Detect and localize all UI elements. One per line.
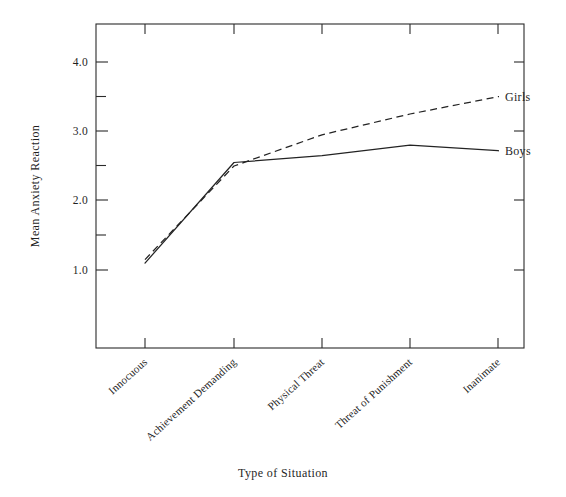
x-tick-label-innocuous: Innocuous: [106, 356, 149, 397]
series-line-boys: [145, 145, 498, 263]
top-axis-ticks: [145, 24, 498, 34]
x-axis-title: Type of Situation: [238, 466, 328, 480]
x-tick-label-achievement-demanding: Achievement Demanding: [143, 355, 238, 442]
x-tick-label-threat-of-punishment: Threat of Punishment: [332, 356, 414, 431]
y-tick-label-1: 1.0: [73, 264, 88, 276]
y-tick-label-4: 4.0: [73, 56, 88, 68]
series-label-boys: Boys: [505, 144, 531, 158]
y-axis-title: Mean Anxiety Reaction: [28, 125, 42, 247]
y-tick-label-2: 2.0: [73, 194, 88, 206]
y-tick-label-3: 3.0: [73, 125, 88, 137]
x-tick-label-physical-threat: Physical Threat: [265, 356, 326, 413]
y-axis-minor-ticks: [96, 97, 106, 236]
line-chart-figure: 4.0 3.0 2.0 1.0 Mean Anxiety Reaction In…: [0, 0, 566, 497]
series-label-girls: Girls: [505, 90, 531, 104]
plot-frame: [96, 24, 524, 348]
x-axis-ticks: [145, 338, 498, 348]
series-line-girls: [145, 97, 498, 260]
x-tick-label-inanimate: Inanimate: [460, 356, 502, 396]
chart-container: 4.0 3.0 2.0 1.0 Mean Anxiety Reaction In…: [0, 0, 566, 497]
